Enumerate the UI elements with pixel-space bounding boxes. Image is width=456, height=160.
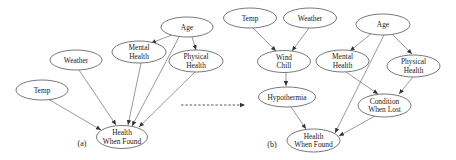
edge-age-to-mental-health bbox=[350, 33, 372, 51]
edge-hypothermia-to-health-when-found bbox=[291, 107, 306, 129]
edge-age-to-physical-health bbox=[392, 34, 412, 54]
node-b-physical-health: Physical Health bbox=[387, 55, 440, 77]
edge-mental-health-to-health-when-found bbox=[128, 63, 141, 125]
node-label-line2: Chill bbox=[277, 61, 292, 70]
node-b-temp: Temp bbox=[224, 8, 277, 28]
node-a-temp: Temp bbox=[16, 80, 68, 100]
node-a-weather: Weather bbox=[50, 50, 102, 70]
node-label: Hypothermia bbox=[268, 93, 308, 102]
node-label-line2: Health bbox=[333, 61, 353, 70]
edge-condition-when-lost-to-health-when-found bbox=[339, 116, 375, 136]
node-a-health-when-found: Health When Found bbox=[97, 126, 148, 149]
node-label: Weather bbox=[298, 14, 323, 23]
node-label-line2: Health bbox=[129, 52, 149, 61]
edge-mental-health-to-condition-when-lost bbox=[346, 72, 378, 94]
node-label-line2: Health bbox=[404, 66, 424, 75]
node-label-line2: When Found bbox=[103, 137, 142, 146]
edge-age-to-physical-health bbox=[192, 37, 196, 50]
panel-a-label: (a) bbox=[78, 139, 87, 148]
node-label: Temp bbox=[242, 14, 259, 23]
panel-a: Temp Weather Mental Health Age Physical … bbox=[16, 17, 223, 149]
edge-age-to-mental-health bbox=[151, 35, 172, 43]
edge-temp-to-health-when-found bbox=[48, 99, 101, 130]
node-label: Weather bbox=[64, 56, 89, 65]
node-b-wind-chill: Wind Chill bbox=[258, 51, 311, 73]
node-a-mental-health: Mental Health bbox=[112, 41, 166, 63]
node-label: Age bbox=[377, 20, 390, 29]
node-label-line2: When Found bbox=[294, 140, 333, 149]
node-a-age: Age bbox=[161, 17, 213, 37]
node-b-hypothermia: Hypothermia bbox=[259, 87, 316, 107]
node-b-condition-when-lost: Condition When Lost bbox=[358, 94, 411, 117]
edge-physical-health-to-condition-when-lost bbox=[399, 77, 413, 94]
node-label: Age bbox=[181, 23, 194, 32]
node-b-age: Age bbox=[356, 14, 410, 35]
edge-weather-to-health-when-found bbox=[79, 70, 116, 125]
bayesian-network-figure: Temp Weather Mental Health Age Physical … bbox=[0, 0, 456, 160]
node-b-weather: Weather bbox=[284, 8, 337, 28]
edge-physical-health-to-health-when-found bbox=[139, 72, 195, 127]
panel-b-label: (b) bbox=[267, 140, 277, 149]
node-label-line2: Health bbox=[186, 61, 206, 70]
panel-b: Temp Weather Wind Chill Hypothermia Age … bbox=[224, 8, 441, 152]
node-label: Temp bbox=[34, 86, 51, 95]
node-a-physical-health: Physical Health bbox=[169, 50, 223, 72]
edge-temp-to-wind-chill bbox=[253, 28, 276, 51]
node-b-health-when-found: Health When Found bbox=[287, 129, 340, 152]
edge-weather-to-wind-chill bbox=[292, 28, 309, 51]
node-label-line2: When Lost bbox=[368, 105, 402, 114]
node-b-mental-health: Mental Health bbox=[316, 50, 369, 72]
